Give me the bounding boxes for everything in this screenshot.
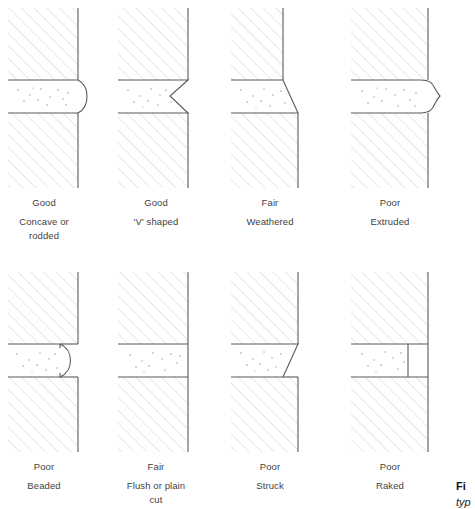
- rating-extruded: Poor: [346, 196, 434, 210]
- name-struck: Struck: [226, 479, 314, 493]
- label-vshaped: Good 'V' shaped: [112, 196, 200, 229]
- rating-beaded: Poor: [0, 460, 88, 474]
- panel-weathered: [231, 8, 298, 188]
- label-extruded: Poor Extruded: [346, 196, 434, 229]
- label-raked: Poor Raked: [346, 460, 434, 493]
- name-concave-line2: rodded: [0, 229, 88, 243]
- panel-flush: [118, 272, 188, 452]
- panel-vshaped: [118, 8, 188, 188]
- panel-beaded: [8, 272, 78, 452]
- rating-flush: Fair: [112, 460, 200, 474]
- rating-weathered: Fair: [226, 196, 314, 210]
- label-struck: Poor Struck: [226, 460, 314, 493]
- name-vshaped: 'V' shaped: [112, 215, 200, 229]
- name-extruded: Extruded: [346, 215, 434, 229]
- label-beaded: Poor Beaded: [0, 460, 88, 493]
- name-weathered: Weathered: [226, 215, 314, 229]
- rating-raked: Poor: [346, 460, 434, 474]
- panel-concave: [8, 8, 87, 188]
- label-weathered: Fair Weathered: [226, 196, 314, 229]
- label-flush: Fair Flush or plain cut: [112, 460, 200, 507]
- name-concave-line1: Concave or: [0, 215, 88, 229]
- panel-extruded: [351, 8, 440, 188]
- panel-struck: [231, 272, 298, 452]
- figure-caption-text: typ: [456, 496, 471, 508]
- name-raked: Raked: [346, 479, 434, 493]
- panel-raked: [351, 272, 428, 452]
- rating-vshaped: Good: [112, 196, 200, 210]
- figure-caption: Fi typ: [456, 478, 475, 509]
- name-beaded: Beaded: [0, 479, 88, 493]
- label-concave: Good Concave or rodded: [0, 196, 88, 243]
- rating-concave: Good: [0, 196, 88, 210]
- name-flush-line1: Flush or plain: [112, 479, 200, 493]
- name-flush-line2: cut: [112, 493, 200, 507]
- figure-caption-label: Fi: [456, 480, 466, 492]
- rating-struck: Poor: [226, 460, 314, 474]
